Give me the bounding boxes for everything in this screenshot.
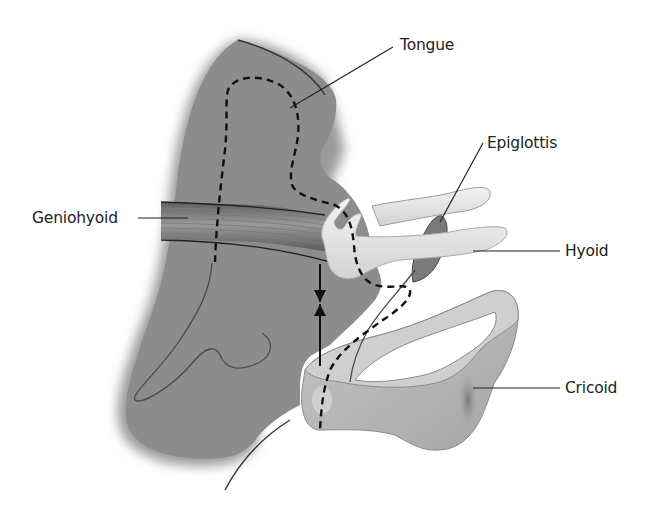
cricoid-shadow <box>458 372 478 428</box>
label-geniohyoid: Geniohyoid <box>32 211 118 227</box>
diagram-canvas <box>0 0 654 523</box>
hyoid-upper-horn <box>372 187 490 226</box>
label-hyoid: Hyoid <box>565 244 608 260</box>
label-cricoid: Cricoid <box>565 381 617 397</box>
label-epiglottis: Epiglottis <box>487 136 557 152</box>
anatomy-diagram: Tongue Epiglottis Geniohyoid Hyoid Crico… <box>0 0 654 523</box>
label-tongue: Tongue <box>400 38 454 54</box>
